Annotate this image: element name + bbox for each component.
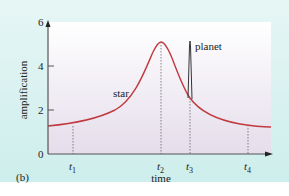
x-tick-t1: t1 [69, 160, 76, 175]
y-tick-0: 0 [38, 148, 44, 160]
microlensing-chart: 0 2 4 6 amplification t1 t2 t3 t4 time s… [0, 0, 289, 196]
x-tick-t4: t4 [244, 160, 251, 175]
y-tick-2: 2 [38, 104, 44, 116]
x-axis-label: time [151, 172, 171, 184]
star-annotation: star [113, 87, 129, 99]
planet-annotation: planet [195, 40, 222, 52]
y-axis-label: amplification [17, 60, 29, 119]
y-tick-6: 6 [38, 16, 44, 28]
y-tick-4: 4 [38, 60, 44, 72]
x-tick-t3: t3 [186, 160, 193, 175]
panel-label: (b) [16, 171, 29, 184]
